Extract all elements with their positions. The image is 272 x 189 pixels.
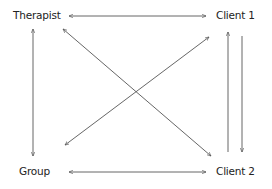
arrow-group-client1 xyxy=(65,37,209,145)
diagram-arrows xyxy=(0,0,272,189)
arrow-therapist-client2 xyxy=(63,29,211,156)
